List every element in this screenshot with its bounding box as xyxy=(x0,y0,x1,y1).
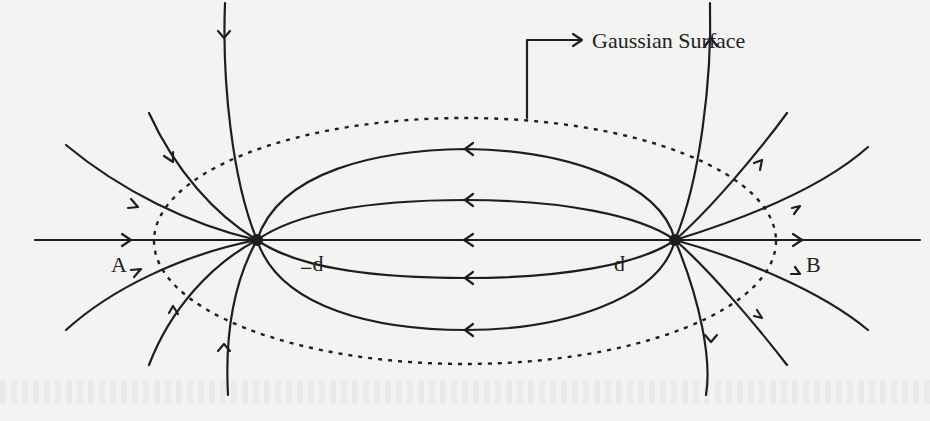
point-a-label: A xyxy=(111,252,127,277)
negative-charge-dot xyxy=(251,234,263,246)
field-diagram-svg: Gaussian Surface xyxy=(0,0,930,421)
negative-charge-label: −q xyxy=(300,256,323,281)
gaussian-surface-pointer-arrow xyxy=(527,34,582,118)
point-b-label: B xyxy=(806,252,821,277)
right-field-lines xyxy=(675,3,868,395)
axis-field-line xyxy=(35,234,920,246)
electric-dipole-diagram: Gaussian Surface xyxy=(0,0,930,421)
positive-charge-dot xyxy=(669,234,681,246)
positive-charge-label: q xyxy=(614,256,625,281)
gaussian-surface-label: Gaussian Surface xyxy=(592,28,745,53)
left-field-lines xyxy=(66,3,257,395)
